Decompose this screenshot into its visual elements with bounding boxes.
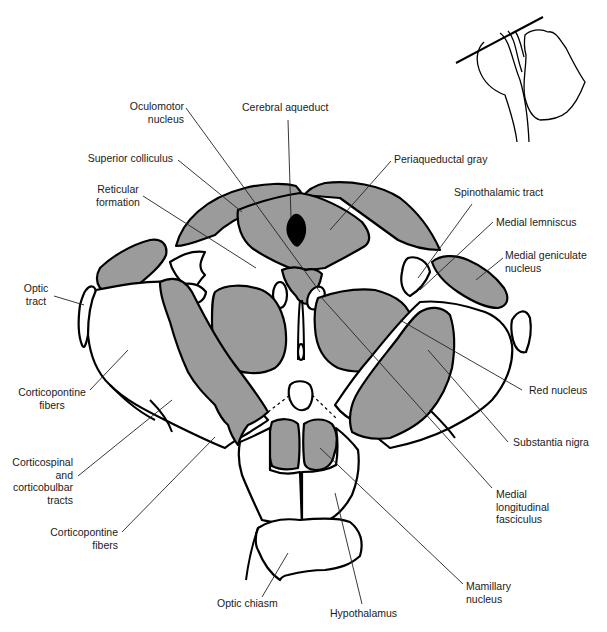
label-line: Medial geniculate	[505, 249, 587, 262]
label-substantia-nigra: Substantia nigra	[513, 436, 589, 449]
label-cerebral-aqueduct: Cerebral aqueduct	[242, 101, 328, 114]
label-line: formation	[93, 196, 143, 209]
label-corticospinal-corticobulbar-tracts: Corticospinal and corticobulbar tracts	[6, 456, 73, 506]
label-line: Corticospinal	[6, 456, 73, 469]
mamillary-nucleus-right-shape	[303, 420, 337, 471]
midline-oval	[298, 344, 304, 360]
label-medial-lemniscus: Medial lemniscus	[496, 216, 577, 229]
label-spinothalamic-tract: Spinothalamic tract	[454, 186, 543, 199]
label-line: nucleus	[505, 262, 587, 275]
label-line: fibers	[44, 539, 118, 552]
label-optic-tract: Optic tract	[20, 282, 52, 307]
inset-sagittal-view	[456, 17, 585, 142]
label-line: Corticopontine	[44, 526, 118, 539]
label-corticopontine-fibers-lower: Corticopontine fibers	[44, 526, 118, 551]
label-oculomotor-nucleus: Oculomotor nucleus	[112, 100, 184, 125]
optic-chiasm-shape	[256, 519, 362, 580]
optic-tract-right-shape	[511, 311, 530, 352]
label-hypothalamus: Hypothalamus	[330, 607, 397, 620]
label-line: Optic	[20, 282, 52, 295]
label-mamillary-nucleus: Mamillary nucleus	[466, 580, 511, 605]
label-line: and	[6, 469, 73, 482]
label-line: Mamillary	[466, 580, 511, 593]
label-line: longitudinal	[496, 501, 549, 514]
label-line: Oculomotor	[112, 100, 184, 113]
midbrain-section-diagram: Oculomotor nucleus Cerebral aqueduct Sup…	[0, 0, 607, 632]
label-line: tract	[20, 295, 52, 308]
label-superior-colliculus: Superior colliculus	[76, 152, 173, 165]
label-line: fibers	[16, 399, 88, 412]
label-line: nucleus	[112, 113, 184, 126]
dashed-boundary-left	[268, 395, 290, 412]
label-line: Reticular	[93, 183, 143, 196]
label-line: nucleus	[466, 593, 511, 606]
label-line: Medial	[496, 488, 549, 501]
optic-chiasm-left-edge	[246, 528, 258, 580]
mamillary-nucleus-left-shape	[269, 419, 300, 469]
label-line: corticobulbar	[6, 481, 73, 494]
label-medial-geniculate-nucleus: Medial geniculate nucleus	[505, 249, 587, 274]
label-reticular-formation: Reticular formation	[93, 183, 143, 208]
label-optic-chiasm: Optic chiasm	[217, 597, 278, 610]
label-line: tracts	[6, 494, 73, 507]
interpeduncular-small-shape	[289, 381, 313, 410]
label-medial-longitudinal-fasciculus: Medial longitudinal fasciculus	[496, 488, 549, 526]
label-red-nucleus: Red nucleus	[529, 384, 587, 397]
dashed-boundary-right	[312, 395, 336, 418]
label-periaqueductal-gray: Periaqueductal gray	[394, 153, 487, 166]
label-line: Corticopontine	[16, 386, 88, 399]
label-corticopontine-fibers-upper: Corticopontine fibers	[16, 386, 88, 411]
right-lateral-outline	[401, 257, 430, 296]
label-line: fasciculus	[496, 513, 549, 526]
